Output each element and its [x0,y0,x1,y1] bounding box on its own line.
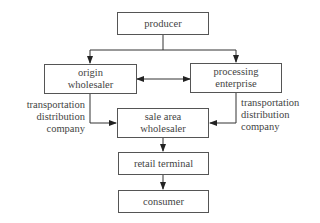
edge-label-right-line1: transportation [241,97,320,109]
node-retail-terminal-label: retail terminal [134,158,193,170]
node-origin-wholesaler: origin wholesaler [44,64,137,94]
edge-label-left-line1: transportation [19,99,85,111]
edge-label-right-line3: company [241,121,320,133]
node-processing-enterprise: processing enterprise [190,63,282,93]
edge-label-right: transportation distribution company [241,97,320,133]
node-consumer-label: consumer [143,196,184,208]
edge-label-left-line3: company [19,123,85,135]
node-processing-enterprise-line1: processing [214,66,259,78]
node-retail-terminal: retail terminal [118,152,209,175]
node-sale-area-wholesaler-line2: wholesaler [140,123,185,135]
node-producer: producer [117,12,209,35]
node-processing-enterprise-line2: enterprise [215,78,256,90]
edge-label-left-line2: distribution [19,111,85,123]
node-consumer: consumer [118,190,209,213]
node-sale-area-wholesaler: sale area wholesaler [117,108,209,138]
node-producer-label: producer [144,18,181,30]
node-origin-wholesaler-line1: origin [78,67,103,79]
node-origin-wholesaler-line2: wholesaler [68,79,113,91]
edge-label-right-line2: distribution [241,109,320,121]
arrow-processing-to-sale-area [210,93,236,123]
arrow-origin-to-sale-area [90,94,116,123]
node-sale-area-wholesaler-line1: sale area [145,111,181,123]
edge-label-left: transportation distribution company [19,99,85,135]
edge-producer-split [90,35,236,50]
